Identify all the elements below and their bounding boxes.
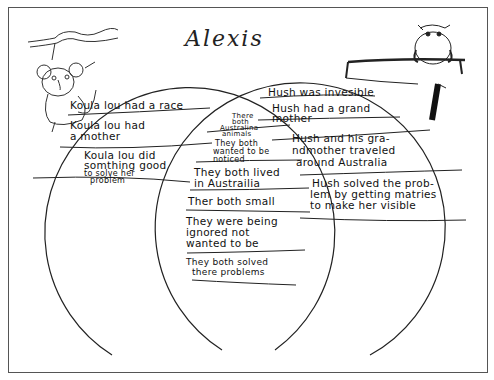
right-item-2-line2: mother (272, 113, 312, 124)
overlap-item-6-line2: there problems (192, 268, 265, 276)
overlap-item-3-line2: in Austrailia (194, 178, 260, 189)
left-item-1: Koula lou had a race (70, 100, 183, 111)
right-item-1: Hush was invesible (268, 87, 374, 98)
right-item-3-line2: ndmother traveled (292, 145, 396, 156)
student-name: Alexis (185, 26, 264, 51)
left-item-3-line4: problem (90, 177, 125, 185)
overlap-item-5-line3: wanted to be (186, 238, 259, 249)
left-item-2-line2: a mother (70, 131, 120, 142)
overlap-item-2-line3: noticed (213, 156, 245, 164)
overlap-item-1-line4: animals (222, 130, 251, 138)
koala-illustration (28, 28, 118, 132)
overlap-item-6-line1: They both solved (186, 258, 268, 266)
right-item-4-line3: to make her visible (310, 200, 416, 211)
right-item-3-line3: around Australia (296, 157, 388, 168)
overlap-item-4: Ther both small (188, 196, 275, 207)
right-item-3-line1: Hush and his gra- (292, 133, 390, 144)
